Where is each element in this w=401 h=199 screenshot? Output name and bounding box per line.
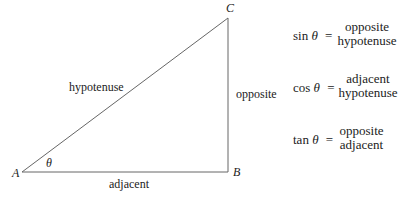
side-label-opposite: opposite [236, 87, 277, 101]
tangent-lhs: tan θ = [293, 132, 333, 148]
side-label-hypotenuse: hypotenuse [69, 80, 124, 94]
right-triangle [22, 18, 228, 172]
vertex-label-c: C [226, 1, 235, 15]
function-name: sin [293, 28, 308, 43]
function-name: cos [293, 80, 310, 95]
sine-fraction: opposite hypotenuse [335, 20, 399, 48]
angle-theta-label: θ [46, 156, 52, 170]
denominator: hypotenuse [336, 86, 400, 100]
theta-symbol: θ [314, 80, 320, 95]
vertex-label-a: A [11, 166, 20, 180]
equals-sign: = [326, 132, 333, 147]
denominator: adjacent [336, 138, 387, 152]
side-label-adjacent: adjacent [109, 177, 150, 191]
vertex-label-b: B [233, 165, 241, 179]
sine-lhs: sin θ = [293, 28, 332, 44]
cosine-lhs: cos θ = [293, 80, 335, 96]
cosine-fraction: adjacent hypotenuse [336, 72, 400, 100]
denominator: hypotenuse [335, 34, 399, 48]
equals-sign: = [325, 28, 332, 43]
function-name: tan [293, 132, 309, 147]
numerator: opposite [336, 124, 387, 138]
numerator: adjacent [336, 72, 400, 86]
numerator: opposite [335, 20, 399, 34]
theta-symbol: θ [311, 28, 317, 43]
equals-sign: = [327, 80, 334, 95]
theta-symbol: θ [312, 132, 318, 147]
tangent-fraction: opposite adjacent [336, 124, 387, 152]
